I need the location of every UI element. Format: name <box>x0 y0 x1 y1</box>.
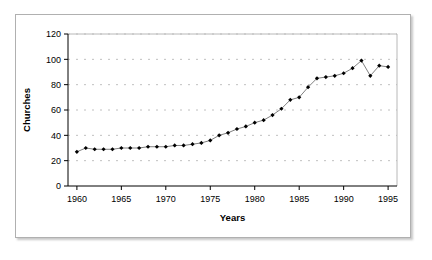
y-axis-tick-label: 80 <box>51 80 61 90</box>
x-axis-tick-label: 1965 <box>111 194 131 204</box>
y-axis-title: Churches <box>21 88 32 132</box>
x-axis-title: Years <box>220 212 245 223</box>
y-axis-tick-label: 40 <box>51 131 61 141</box>
x-axis-tick-label: 1960 <box>67 194 87 204</box>
y-axis-tick-label: 20 <box>51 156 61 166</box>
y-axis-tick-label: 120 <box>46 29 61 39</box>
y-axis-tick-label: 60 <box>51 105 61 115</box>
line-chart[interactable]: 0204060801001201960196519701975198019851… <box>16 15 410 237</box>
x-axis-tick-label: 1980 <box>245 194 265 204</box>
x-axis-tick-label: 1985 <box>289 194 309 204</box>
y-axis-tick-label: 0 <box>56 181 61 191</box>
x-axis-tick-label: 1975 <box>200 194 220 204</box>
x-axis-tick-label: 1995 <box>378 194 398 204</box>
x-axis-tick-label: 1970 <box>156 194 176 204</box>
y-axis-tick-label: 100 <box>46 55 61 65</box>
chart-frame: 0204060801001201960196519701975198019851… <box>15 14 411 238</box>
x-axis-tick-label: 1990 <box>334 194 354 204</box>
figure-canvas: 0204060801001201960196519701975198019851… <box>0 0 432 260</box>
